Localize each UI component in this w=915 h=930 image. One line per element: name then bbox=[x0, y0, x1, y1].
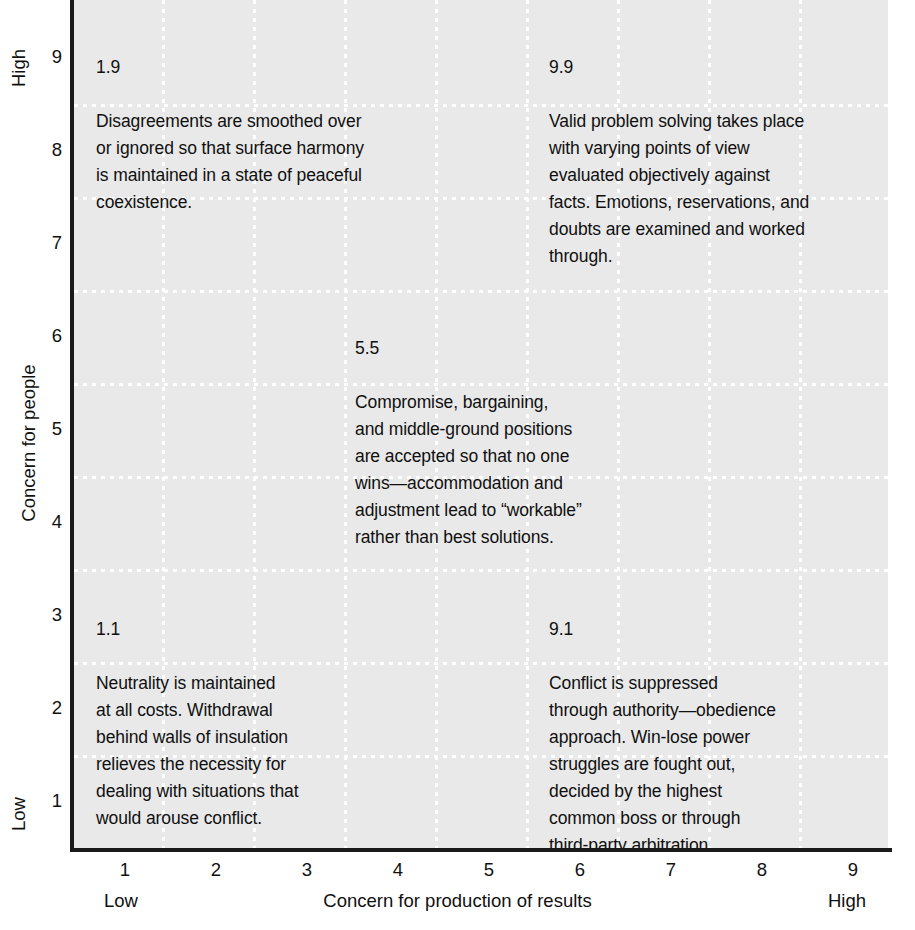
grid-cell-9-1: 9.1 Conflict is suppressed through autho… bbox=[549, 589, 879, 848]
y-tick-6: 6 bbox=[34, 326, 62, 346]
grid-cell-9-9-code: 9.9 bbox=[549, 54, 888, 81]
y-tick-7: 7 bbox=[34, 233, 62, 253]
grid-cell-1-9-text: Disagreements are smoothed over or ignor… bbox=[96, 108, 526, 216]
grid-cell-9-9-text: Valid problem solving takes place with v… bbox=[549, 108, 888, 270]
x-tick-8: 8 bbox=[742, 860, 782, 880]
y-axis-low-label: Low bbox=[8, 780, 30, 848]
y-axis-line bbox=[70, 0, 74, 852]
x-tick-6: 6 bbox=[560, 860, 600, 880]
x-axis-low-label: Low bbox=[104, 890, 138, 912]
x-tick-1: 1 bbox=[105, 860, 145, 880]
grid-cell-1-1-text: Neutrality is maintained at all costs. W… bbox=[96, 670, 416, 832]
y-tick-2: 2 bbox=[34, 698, 62, 718]
grid-cell-1-9: 1.9 Disagreements are smoothed over or i… bbox=[96, 27, 526, 243]
managerial-grid-figure: 1.9 Disagreements are smoothed over or i… bbox=[0, 0, 915, 930]
x-axis-line bbox=[70, 848, 892, 852]
grid-cell-9-9: 9.9 Valid problem solving takes place wi… bbox=[549, 27, 888, 297]
x-tick-9: 9 bbox=[833, 860, 873, 880]
y-tick-8: 8 bbox=[34, 140, 62, 160]
y-axis-title: Concern for people bbox=[18, 353, 40, 533]
x-tick-3: 3 bbox=[287, 860, 327, 880]
y-tick-1: 1 bbox=[34, 791, 62, 811]
grid-cell-9-1-code: 9.1 bbox=[549, 616, 879, 643]
x-tick-2: 2 bbox=[196, 860, 236, 880]
grid-cell-1-1: 1.1 Neutrality is maintained at all cost… bbox=[96, 589, 416, 848]
plot-area: 1.9 Disagreements are smoothed over or i… bbox=[74, 0, 888, 848]
x-tick-4: 4 bbox=[378, 860, 418, 880]
x-tick-7: 7 bbox=[651, 860, 691, 880]
x-tick-5: 5 bbox=[469, 860, 509, 880]
y-tick-3: 3 bbox=[34, 605, 62, 625]
grid-cell-5-5-code: 5.5 bbox=[355, 335, 685, 362]
x-axis-high-label: High bbox=[828, 890, 866, 912]
y-tick-9: 9 bbox=[34, 47, 62, 67]
x-axis-ticks: 1 2 3 4 5 6 7 8 9 bbox=[0, 860, 915, 884]
grid-cell-1-9-code: 1.9 bbox=[96, 54, 526, 81]
grid-cell-5-5: 5.5 Compromise, bargaining, and middle-g… bbox=[355, 308, 685, 578]
grid-cell-9-1-text: Conflict is suppressed through authority… bbox=[549, 670, 879, 848]
grid-cell-5-5-text: Compromise, bargaining, and middle-groun… bbox=[355, 389, 685, 551]
grid-cell-1-1-code: 1.1 bbox=[96, 616, 416, 643]
y-axis-high-label: High bbox=[8, 33, 30, 103]
